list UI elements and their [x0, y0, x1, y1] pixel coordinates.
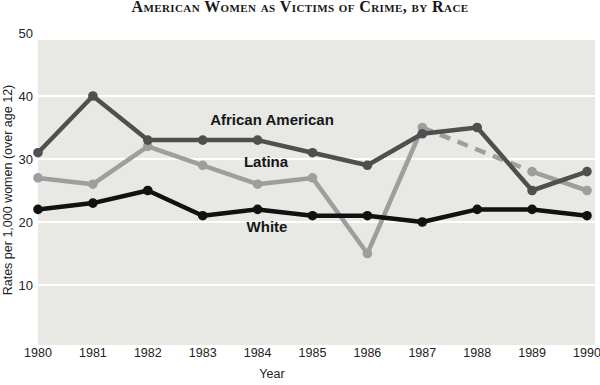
- series-label-white: White: [247, 218, 288, 235]
- data-point-latina: [253, 179, 263, 189]
- data-point-white: [253, 205, 263, 215]
- data-point-african-american: [308, 148, 318, 158]
- data-point-white: [527, 205, 537, 215]
- x-tick-label: 1980: [24, 346, 52, 360]
- line-chart-canvas: 1020304050198019811982198319841985198619…: [0, 0, 600, 385]
- x-axis-label: Year: [222, 367, 322, 381]
- series-label-african-american: African American: [210, 111, 334, 128]
- x-tick-label: 1984: [244, 346, 272, 360]
- data-point-african-american: [88, 91, 98, 101]
- series-label-latina: Latina: [244, 153, 289, 170]
- data-point-white: [472, 205, 482, 215]
- data-point-african-american: [253, 135, 263, 145]
- data-point-latina: [308, 173, 318, 183]
- y-tick-label: 40: [19, 89, 33, 104]
- data-point-white: [582, 211, 592, 221]
- data-point-white: [198, 211, 208, 221]
- data-point-latina: [88, 179, 98, 189]
- crime-rate-chart-figure: American Women as Victims of Crime, by R…: [0, 0, 600, 385]
- x-tick-label: 1983: [189, 346, 217, 360]
- plot-area: [38, 40, 595, 345]
- y-tick-label: 10: [19, 278, 33, 293]
- y-tick-label: 20: [19, 215, 33, 230]
- data-point-latina: [527, 167, 537, 177]
- x-tick-label: 1988: [463, 346, 491, 360]
- data-point-white: [308, 211, 318, 221]
- data-point-white: [33, 205, 43, 215]
- data-point-african-american: [527, 186, 537, 196]
- data-point-african-american: [198, 135, 208, 145]
- y-tick-label: 30: [19, 152, 33, 167]
- data-point-african-american: [33, 148, 43, 158]
- x-tick-label: 1989: [518, 346, 546, 360]
- data-point-latina: [582, 186, 592, 196]
- data-point-white: [363, 211, 373, 221]
- x-tick-label: 1986: [353, 346, 381, 360]
- x-tick-label: 1990: [573, 346, 600, 360]
- x-tick-label: 1981: [79, 346, 107, 360]
- data-point-african-american: [363, 161, 373, 171]
- data-point-white: [418, 217, 428, 227]
- data-point-latina: [198, 161, 208, 171]
- data-point-latina: [33, 173, 43, 183]
- data-point-white: [143, 186, 153, 196]
- data-point-african-american: [582, 167, 592, 177]
- x-tick-label: 1987: [408, 346, 436, 360]
- y-tick-label: 50: [19, 26, 33, 41]
- data-point-african-american: [418, 129, 428, 139]
- data-point-african-american: [472, 123, 482, 133]
- data-point-african-american: [143, 135, 153, 145]
- x-tick-label: 1985: [299, 346, 327, 360]
- x-tick-label: 1982: [134, 346, 162, 360]
- data-point-white: [88, 198, 98, 208]
- data-point-latina: [363, 249, 373, 259]
